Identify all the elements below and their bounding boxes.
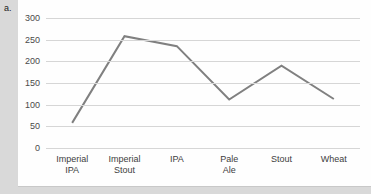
gridline — [46, 61, 360, 62]
x-axis-tick-label: PaleAle — [203, 152, 255, 186]
gridline — [46, 40, 360, 41]
figure-container: a. 050100150200250300 ImperialIPAImperia… — [0, 0, 371, 194]
y-axis-tick-label: 100 — [25, 100, 40, 109]
gridline — [46, 83, 360, 84]
gridline — [46, 105, 360, 106]
x-axis-tick-label: Stout — [255, 152, 307, 186]
y-axis-tick-label: 200 — [25, 57, 40, 66]
x-axis-tick-label: ImperialIPA — [46, 152, 98, 186]
y-axis-tick-label: 300 — [25, 14, 40, 23]
x-axis-tick-label: IPA — [151, 152, 203, 186]
gridline — [46, 126, 360, 127]
y-axis-tick-label: 0 — [35, 144, 40, 153]
x-axis-tick-label: ImperialStout — [98, 152, 150, 186]
x-axis-tick-label: Wheat — [308, 152, 360, 186]
y-axis-tick-label: 250 — [25, 35, 40, 44]
data-series-line — [72, 36, 334, 123]
plot-area: 050100150200250300 — [46, 18, 360, 148]
y-axis-tick-label: 150 — [25, 79, 40, 88]
x-axis-tick-labels: ImperialIPAImperialStoutIPAPaleAleStoutW… — [46, 152, 360, 186]
y-axis-tick-label: 50 — [30, 122, 40, 131]
figure-label: a. — [4, 3, 12, 13]
chart-card: 050100150200250300 ImperialIPAImperialSt… — [18, 0, 371, 187]
gridline — [46, 18, 360, 19]
gridline — [46, 148, 360, 149]
